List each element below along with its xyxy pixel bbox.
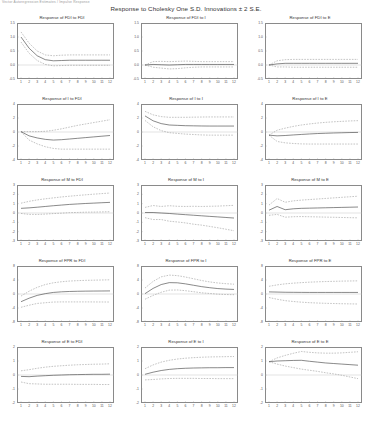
- lower-band: [145, 290, 234, 299]
- x-tick-label: 10: [92, 404, 96, 408]
- upper-band: [21, 120, 110, 132]
- x-axis-labels: 123456789101112: [141, 404, 238, 412]
- y-tick-label: 2: [261, 192, 263, 196]
- x-tick-label: 8: [325, 242, 327, 246]
- x-tick-label: 11: [100, 80, 104, 84]
- x-tick-label: 12: [232, 323, 236, 327]
- plot-area: [17, 104, 114, 160]
- x-tick-label: 9: [333, 242, 335, 246]
- y-tick-label: -2: [12, 144, 15, 148]
- x-tick-label: 6: [309, 404, 311, 408]
- y-tick-label: 0: [137, 373, 139, 377]
- x-tick-label: 12: [108, 323, 112, 327]
- x-tick-label: 8: [325, 80, 327, 84]
- y-tick-label: -2: [12, 401, 15, 405]
- y-tick-label: 0: [137, 130, 139, 134]
- panel-title: Response of E to E: [248, 339, 372, 344]
- x-tick-label: 10: [340, 404, 344, 408]
- y-axis-labels: 3210-1-2-3: [0, 185, 16, 241]
- irf-curves: [265, 23, 362, 79]
- x-tick-label: 1: [20, 323, 22, 327]
- x-tick-label: 11: [348, 404, 352, 408]
- y-axis-labels: 1.51.00.50.0-0.5: [248, 23, 264, 79]
- y-tick-label: -1: [260, 220, 263, 224]
- x-tick-label: 6: [61, 161, 63, 165]
- panel-title: Response of M to E: [248, 177, 372, 182]
- y-tick-label: 0: [261, 373, 263, 377]
- x-tick-label: 10: [216, 242, 220, 246]
- x-tick-label: 3: [36, 404, 38, 408]
- x-tick-label: 7: [69, 404, 71, 408]
- x-tick-label: 9: [333, 80, 335, 84]
- panel-title: Response of M to I: [124, 177, 248, 182]
- x-tick-label: 4: [168, 242, 170, 246]
- y-tick-label: 8: [261, 264, 263, 268]
- y-tick-label: 4: [261, 278, 263, 282]
- x-tick-label: 8: [325, 323, 327, 327]
- y-tick-label: 4: [13, 278, 15, 282]
- mean-response-line: [269, 206, 358, 210]
- x-tick-label: 1: [144, 323, 146, 327]
- y-tick-label: 2: [137, 192, 139, 196]
- y-tick-label: 4: [137, 102, 139, 106]
- mean-response-line: [269, 360, 358, 365]
- x-tick-label: 5: [176, 404, 178, 408]
- panel-title: Response of I to FDI: [0, 96, 124, 101]
- mean-response-line: [21, 37, 110, 61]
- y-tick-label: 0: [261, 130, 263, 134]
- y-axis-labels: 3210-1-2-3: [124, 185, 140, 241]
- x-tick-label: 6: [61, 404, 63, 408]
- x-tick-label: 4: [44, 404, 46, 408]
- x-tick-label: 7: [317, 242, 319, 246]
- x-tick-label: 11: [100, 323, 104, 327]
- y-tick-label: 8: [13, 264, 15, 268]
- x-tick-label: 4: [168, 80, 170, 84]
- x-axis-labels: 123456789101112: [265, 242, 362, 250]
- y-tick-label: -0.5: [257, 77, 263, 81]
- y-axis-labels: 420-2-4: [0, 104, 16, 160]
- x-tick-label: 12: [356, 80, 360, 84]
- x-tick-label: 7: [193, 404, 195, 408]
- x-tick-label: 11: [348, 323, 352, 327]
- x-tick-label: 8: [201, 242, 203, 246]
- y-tick-label: 4: [261, 102, 263, 106]
- x-tick-label: 5: [52, 161, 54, 165]
- irf-panel: Response of E to FDI210-1-21234567891011…: [0, 338, 124, 419]
- x-tick-label: 9: [209, 323, 211, 327]
- y-tick-label: 0.0: [134, 63, 139, 67]
- x-tick-label: 2: [152, 323, 154, 327]
- x-tick-label: 6: [309, 161, 311, 165]
- x-tick-label: 3: [160, 161, 162, 165]
- x-tick-label: 5: [52, 323, 54, 327]
- y-tick-label: -8: [12, 320, 15, 324]
- x-axis-labels: 123456789101112: [265, 404, 362, 412]
- y-tick-label: 0: [261, 292, 263, 296]
- y-tick-label: -1: [136, 220, 139, 224]
- x-tick-label: 12: [356, 242, 360, 246]
- x-tick-label: 7: [69, 161, 71, 165]
- x-tick-label: 8: [77, 242, 79, 246]
- x-tick-label: 12: [108, 80, 112, 84]
- corner-note: Vector Autoregression Estimates / Impuls…: [2, 0, 90, 4]
- x-tick-label: 3: [160, 242, 162, 246]
- lower-band: [145, 378, 234, 380]
- x-tick-label: 7: [317, 323, 319, 327]
- x-tick-label: 7: [69, 323, 71, 327]
- x-tick-label: 5: [52, 80, 54, 84]
- x-tick-label: 11: [224, 242, 228, 246]
- x-tick-label: 1: [268, 404, 270, 408]
- panel-title: Response of FPR to I: [124, 258, 248, 263]
- x-tick-label: 9: [333, 404, 335, 408]
- irf-panel: Response of I to E420-2-4123456789101112: [248, 95, 372, 176]
- x-tick-label: 1: [20, 161, 22, 165]
- x-tick-label: 2: [276, 80, 278, 84]
- y-tick-label: 8: [137, 264, 139, 268]
- y-tick-label: -2: [136, 144, 139, 148]
- y-tick-label: -0.5: [133, 77, 139, 81]
- x-tick-label: 11: [348, 242, 352, 246]
- irf-panel: Response of FDI to FDI1.51.00.50.0-0.512…: [0, 14, 124, 95]
- x-tick-label: 12: [356, 161, 360, 165]
- upper-band: [21, 364, 110, 371]
- x-tick-label: 10: [340, 323, 344, 327]
- upper-band: [145, 205, 234, 207]
